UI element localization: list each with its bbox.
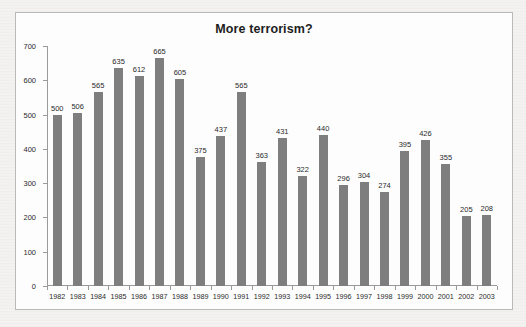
plot-area: 0100200300400500600700 50019825061983565… [47,46,497,286]
bar-value-label: 395 [399,140,412,149]
bar-value-label: 612 [133,65,146,74]
bar-value-label: 440 [317,124,330,133]
bar-value-label: 322 [296,165,309,174]
x-axis-tick [67,286,68,290]
x-axis-tick-label: 1986 [131,292,147,301]
x-axis-tick [108,286,109,290]
bar: 4371990 [216,136,225,286]
bar-value-label: 605 [174,68,187,77]
x-axis-tick [292,286,293,290]
bar: 6051988 [175,79,184,286]
bar-value-label: 205 [460,205,473,214]
y-axis-tick: 600 [43,80,47,81]
bar: 3751989 [196,157,205,286]
bar: 6121986 [135,76,144,286]
bar: 2082003 [482,215,491,286]
y-axis-tick: 100 [43,252,47,253]
x-axis-tick-label: 2000 [417,292,433,301]
bar: 5651984 [94,92,103,286]
x-axis-tick [231,286,232,290]
x-axis-tick-label: 1984 [90,292,106,301]
x-axis-tick-label: 2002 [458,292,474,301]
bar: 6651987 [155,58,164,286]
x-axis-tick-label: 1990 [213,292,229,301]
bar: 3552001 [441,164,450,286]
bar-value-label: 375 [194,146,207,155]
bar-value-label: 304 [358,171,371,180]
bar-value-label: 208 [481,204,494,213]
bar: 3631992 [257,162,266,286]
y-axis-tick-label: 100 [23,247,36,256]
bar-value-label: 635 [112,57,125,66]
x-axis-tick-label: 1982 [49,292,65,301]
bar-value-label: 426 [419,129,432,138]
y-axis-tick-label: 300 [23,179,36,188]
y-axis-tick-label: 600 [23,76,36,85]
bar: 6351985 [114,68,123,286]
x-axis-tick [129,286,130,290]
y-axis-tick: 300 [43,183,47,184]
x-axis-tick [88,286,89,290]
x-axis-tick [497,286,498,290]
bar: 4262000 [421,140,430,286]
x-axis-tick-label: 1989 [192,292,208,301]
x-axis-tick [272,286,273,290]
screenshot-page: More terrorism? 0100200300400500600700 5… [0,0,526,327]
bar: 3951999 [400,151,409,286]
bar: 3041997 [360,182,369,286]
bar: 5061983 [73,113,82,286]
bar: 2961996 [339,185,348,286]
bar: 3221994 [298,176,307,286]
y-axis-tick-label: 400 [23,144,36,153]
x-axis-tick-label: 1995 [315,292,331,301]
y-axis-tick-label: 200 [23,213,36,222]
bar-value-label: 274 [378,181,391,190]
bar-value-label: 431 [276,127,289,136]
bar: 4401995 [319,135,328,286]
y-axis-tick-label: 500 [23,110,36,119]
bar: 2052002 [462,216,471,286]
x-axis-tick [149,286,150,290]
x-axis-tick-label: 1996 [336,292,352,301]
x-axis-tick [313,286,314,290]
x-axis-tick [477,286,478,290]
bar-value-label: 565 [92,81,105,90]
x-axis-tick [47,286,48,290]
x-axis-tick-label: 1992 [254,292,270,301]
x-axis-tick [211,286,212,290]
bar: 4311993 [278,138,287,286]
bar-value-label: 565 [235,81,248,90]
x-axis-tick-label: 1999 [397,292,413,301]
bar-value-label: 437 [215,125,228,134]
y-axis-tick-label: 700 [23,42,36,51]
bar-value-label: 355 [440,153,453,162]
x-axis-tick-label: 1985 [111,292,127,301]
chart-title: More terrorism? [16,22,512,36]
x-axis-tick-label: 1988 [172,292,188,301]
x-axis-tick [374,286,375,290]
x-axis-tick [354,286,355,290]
x-axis-tick-label: 1998 [377,292,393,301]
bar-value-label: 500 [51,104,64,113]
x-axis-tick-label: 1997 [356,292,372,301]
bar: 2741998 [380,192,389,286]
x-axis-tick [252,286,253,290]
bar-value-label: 665 [153,47,166,56]
x-axis-tick [436,286,437,290]
bar-value-label: 296 [337,174,350,183]
y-axis-line [47,46,48,286]
x-axis-tick-label: 1991 [233,292,249,301]
x-axis-tick [415,286,416,290]
x-axis-tick [333,286,334,290]
bar: 5001982 [53,115,62,286]
y-axis-tick: 200 [43,217,47,218]
x-axis-tick [190,286,191,290]
x-axis-tick [170,286,171,290]
y-axis-tick: 400 [43,149,47,150]
x-axis-tick [456,286,457,290]
x-axis-tick-label: 1983 [70,292,86,301]
x-axis-tick-label: 2003 [479,292,495,301]
bar-value-label: 363 [256,151,269,160]
bar: 5651991 [237,92,246,286]
bar-value-label: 506 [71,102,84,111]
